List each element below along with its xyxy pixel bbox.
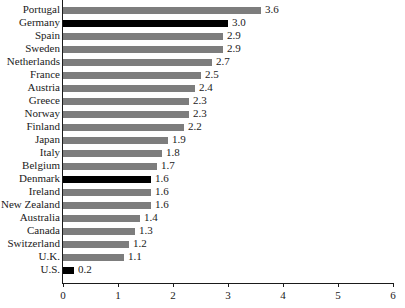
y-axis-line: [62, 0, 63, 284]
category-label: France: [0, 68, 60, 81]
bar-row: Belgium1.7: [0, 160, 405, 173]
x-axis-tick: [118, 283, 119, 287]
category-label: New Zealand: [0, 198, 60, 211]
category-label: Canada: [0, 224, 60, 237]
bar-row: Switzerland1.2: [0, 238, 405, 251]
category-label: Portugal: [0, 3, 60, 16]
bar-value-label: 1.4: [144, 211, 158, 224]
bar-value-label: 1.8: [166, 146, 180, 159]
category-label: Ireland: [0, 185, 60, 198]
bar: [63, 189, 151, 196]
bar-value-label: 2.5: [205, 68, 219, 81]
bar-value-label: 2.4: [199, 81, 213, 94]
bar-value-label: 1.7: [161, 159, 175, 172]
bar-row: U.S.0.2: [0, 264, 405, 277]
bar-row: Italy1.8: [0, 147, 405, 160]
bar: [63, 7, 261, 14]
bar: [63, 124, 184, 131]
category-label: Austria: [0, 81, 60, 94]
x-axis-tick: [283, 283, 284, 287]
bar-row: Netherlands2.7: [0, 56, 405, 69]
bar-value-label: 3.0: [232, 16, 246, 29]
bar: [63, 33, 223, 40]
bar-value-label: 0.2: [78, 263, 92, 276]
bar: [63, 267, 74, 274]
bar: [63, 98, 189, 105]
x-axis-tick-label: 5: [323, 289, 353, 302]
bar: [63, 46, 223, 53]
bar-row: Denmark1.6: [0, 173, 405, 186]
category-label: Switzerland: [0, 237, 60, 250]
bar-value-label: 1.6: [155, 185, 169, 198]
bar-value-label: 1.1: [128, 250, 142, 263]
bar-row: Ireland1.6: [0, 186, 405, 199]
category-label: U.K.: [0, 250, 60, 263]
category-label: U.S.: [0, 263, 60, 276]
category-label: Germany: [0, 16, 60, 29]
category-label: Spain: [0, 29, 60, 42]
bar-chart: Portugal3.6Germany3.0Spain2.9Sweden2.9Ne…: [0, 0, 405, 308]
category-label: Italy: [0, 146, 60, 159]
bar-row: Norway2.3: [0, 108, 405, 121]
bar-value-label: 2.2: [188, 120, 202, 133]
bar-row: U.K.1.1: [0, 251, 405, 264]
bar-row: Germany3.0: [0, 17, 405, 30]
bar-row: Japan1.9: [0, 134, 405, 147]
category-label: Netherlands: [0, 55, 60, 68]
bar: [63, 85, 195, 92]
bar-value-label: 1.3: [139, 224, 153, 237]
bar: [63, 241, 129, 248]
bar-row: Portugal3.6: [0, 4, 405, 17]
bar: [63, 59, 212, 66]
x-axis-tick: [63, 283, 64, 287]
bar-value-label: 1.6: [155, 172, 169, 185]
x-axis-tick: [393, 283, 394, 287]
bar-row: New Zealand1.6: [0, 199, 405, 212]
bar-value-label: 1.6: [155, 198, 169, 211]
x-axis-tick-label: 1: [103, 289, 133, 302]
x-axis-tick: [173, 283, 174, 287]
bar-row: Spain2.9: [0, 30, 405, 43]
bar: [63, 111, 189, 118]
bar-value-label: 3.6: [265, 3, 279, 16]
bar-value-label: 2.9: [227, 42, 241, 55]
x-axis-tick-label: 6: [378, 289, 405, 302]
bar-value-label: 2.3: [193, 94, 207, 107]
x-axis-tick: [338, 283, 339, 287]
bar-row: Australia1.4: [0, 212, 405, 225]
category-label: Australia: [0, 211, 60, 224]
x-axis-tick-label: 2: [158, 289, 188, 302]
bar: [63, 137, 168, 144]
x-axis-tick-label: 4: [268, 289, 298, 302]
bar-value-label: 1.2: [133, 237, 147, 250]
bar-value-label: 2.3: [193, 107, 207, 120]
bar-row: Finland2.2: [0, 121, 405, 134]
bar: [63, 20, 228, 27]
bar-value-label: 1.9: [172, 133, 186, 146]
bar: [63, 176, 151, 183]
bar-row: Sweden2.9: [0, 43, 405, 56]
category-label: Denmark: [0, 172, 60, 185]
bar: [63, 215, 140, 222]
category-label: Norway: [0, 107, 60, 120]
x-axis-tick: [228, 283, 229, 287]
bar: [63, 150, 162, 157]
x-axis-tick-label: 0: [48, 289, 78, 302]
category-label: Japan: [0, 133, 60, 146]
bar: [63, 163, 157, 170]
bar: [63, 202, 151, 209]
bar-row: Canada1.3: [0, 225, 405, 238]
bar: [63, 228, 135, 235]
bar: [63, 254, 124, 261]
category-label: Greece: [0, 94, 60, 107]
bar-value-label: 2.9: [227, 29, 241, 42]
category-label: Sweden: [0, 42, 60, 55]
x-axis-tick-label: 3: [213, 289, 243, 302]
category-label: Belgium: [0, 159, 60, 172]
bar-value-label: 2.7: [216, 55, 230, 68]
category-label: Finland: [0, 120, 60, 133]
bar-rows: Portugal3.6Germany3.0Spain2.9Sweden2.9Ne…: [0, 0, 405, 283]
bar: [63, 72, 201, 79]
